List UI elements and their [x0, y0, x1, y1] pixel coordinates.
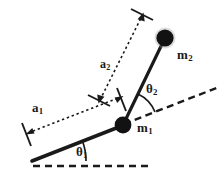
mass-m1-marker	[115, 117, 132, 134]
mass-2-label-subscript: 2	[188, 53, 193, 63]
mass-2-label: m2	[177, 48, 193, 61]
angle-1-label-base: θ	[76, 144, 83, 159]
pendulum-figure: m1 m2 a1 a2 θ1 θ2	[0, 0, 224, 175]
a2-dimension	[88, 9, 153, 106]
link-1-length-label-base: a	[32, 100, 39, 115]
angle-2-label-subscript: 2	[153, 87, 158, 97]
link-1-length-label: a1	[32, 101, 43, 114]
mass-1-label-subscript: 1	[148, 126, 153, 136]
link-2	[123, 40, 164, 125]
a1-tick-left	[22, 123, 31, 146]
link-2-length-label-subscript: 2	[106, 63, 110, 72]
angle-1-label: θ1	[76, 145, 88, 158]
mass-m2-marker	[155, 28, 176, 49]
link-2-length-label: a2	[100, 58, 110, 70]
mass-1-label: m1	[137, 121, 153, 134]
link-1-length-label-subscript: 1	[39, 106, 44, 116]
figure-canvas	[0, 0, 224, 175]
a1-dimension	[22, 88, 126, 146]
angle-2-label-base: θ	[146, 81, 153, 96]
angle-1-label-subscript: 1	[83, 150, 88, 160]
mass-1-label-base: m	[137, 120, 148, 135]
angle-2-label: θ2	[146, 82, 158, 95]
mass-2-label-base: m	[177, 47, 188, 62]
